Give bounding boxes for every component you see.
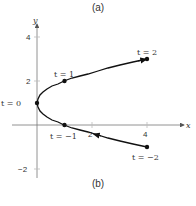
point-t-2 bbox=[145, 57, 149, 61]
label-t-neg1: t = −1 bbox=[50, 132, 77, 141]
y-tick-label-2: 2 bbox=[26, 77, 31, 86]
point-t-neg1 bbox=[62, 123, 66, 127]
label-t-1: t = 1 bbox=[54, 70, 74, 79]
x-tick-label-4: 4 bbox=[143, 130, 148, 139]
x-axis bbox=[12, 122, 184, 128]
orientation-arrow-upper bbox=[138, 60, 144, 61]
label-t-neg2: t = −2 bbox=[132, 153, 159, 162]
label-t-2: t = 2 bbox=[137, 48, 157, 57]
x-tick-label-2: 2 bbox=[88, 130, 93, 139]
x-axis-label: x bbox=[186, 121, 191, 130]
point-t-neg2 bbox=[145, 145, 149, 149]
parametric-plot: x y 2 4 4 2 −2 t = −2 t = −1 t = 0 t = 1… bbox=[0, 0, 196, 206]
y-tick-label-4: 4 bbox=[26, 33, 31, 42]
y-tick-label-neg2: −2 bbox=[18, 165, 28, 174]
caption-b: (b) bbox=[0, 178, 196, 189]
y-axis-label: y bbox=[32, 16, 38, 25]
orientation-arrow-lower bbox=[96, 135, 101, 136]
point-t-1 bbox=[62, 79, 66, 83]
label-t-0: t = 0 bbox=[1, 99, 21, 108]
point-t-0 bbox=[35, 101, 39, 105]
